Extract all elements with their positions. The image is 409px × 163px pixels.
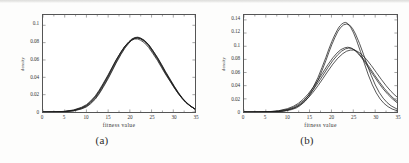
x-tick-label: 5 [63,115,66,120]
panel-a: 0 0.02 0.04 0.06 0.08 0.1 0 5 10 15 20 2… [0,0,204,163]
y-axis-title: density [221,57,226,71]
tick-marks-a [43,15,195,112]
tick-marks-b [244,15,397,112]
density-curves-a [43,15,195,112]
x-tick-label: 35 [395,115,400,120]
x-tick-label: 15 [105,115,110,120]
y-tick-label: 0.06 [231,70,243,75]
y-tick-label: 0.1 [33,22,42,27]
plot-area-a: 0 0.02 0.04 0.06 0.08 0.1 0 5 10 15 20 2… [42,14,196,113]
x-tick-label: 35 [193,115,198,120]
plot-frame-a [42,14,196,113]
y-tick-label: 0.06 [30,57,42,62]
x-tick-label: 20 [329,115,334,120]
curve-b-5 [244,50,397,112]
y-tick-label: 0.04 [30,75,42,80]
x-tick-label: 20 [127,115,132,120]
x-tick-label: 10 [285,115,290,120]
y-tick-label: 0.04 [231,83,243,88]
y-axis-title: density [20,57,25,71]
curve-b-2 [244,24,397,112]
x-tick-label: 25 [351,115,356,120]
density-curves-b [244,15,397,112]
y-tick-label: 0.08 [30,40,42,45]
plot-frame-b [243,14,398,113]
panel-caption-b: (b) [205,134,409,146]
x-tick-label: 0 [242,115,245,120]
y-tick-label: 0.14 [231,16,243,21]
y-tick-label: 0.02 [30,93,42,98]
plot-area-b: 0 0.02 0.04 0.06 0.08 0.1 0.12 0.14 0 5 … [243,14,398,113]
x-tick-label: 10 [83,115,88,120]
x-tick-label: 15 [307,115,312,120]
y-tick-label: 0.08 [231,57,243,62]
x-tick-label: 25 [149,115,154,120]
panel-b: 0 0.02 0.04 0.06 0.08 0.1 0.12 0.14 0 5 … [205,0,409,163]
x-tick-label: 5 [264,115,267,120]
x-tick-label: 0 [41,115,44,120]
x-tick-label: 30 [373,115,378,120]
curve-a-5 [43,39,195,112]
y-tick-label: 0.1 [234,43,243,48]
x-axis-title: fitness value [304,122,337,128]
curve-b-4 [244,48,397,112]
x-tick-label: 30 [171,115,176,120]
curve-a-2 [43,37,195,112]
curve-a-1 [43,38,195,112]
panel-caption-a: (a) [0,134,204,146]
y-tick-label: 0.12 [231,30,243,35]
figure-two-panel-density-plots: 0 0.02 0.04 0.06 0.08 0.1 0 5 10 15 20 2… [0,0,409,163]
curve-a-4 [43,38,195,112]
x-axis-title: fitness value [103,122,136,128]
curve-b-1 [244,22,397,112]
y-tick-label: 0.02 [231,97,243,102]
curve-a-3 [43,38,195,112]
